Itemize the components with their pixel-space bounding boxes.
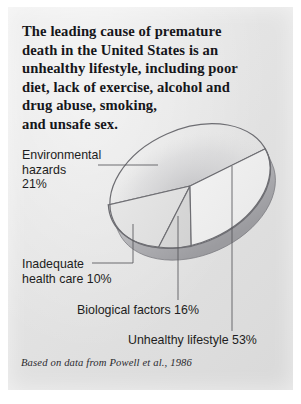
headline-line-4: diet, lack of exercise, alcohol and [22,78,262,97]
label-unhealthy-lifestyle: Unhealthy lifestyle 53% [128,333,257,348]
label-inadequate-line-2: health care 10% [22,272,112,287]
label-environmental-hazards: Environmental hazards 21% [22,148,101,192]
headline-line-1: The leading cause of premature [22,22,262,41]
label-unhealthy-line-1: Unhealthy lifestyle 53% [128,333,257,348]
headline-line-5: drug abuse, smoking, [22,96,262,115]
label-biological-line-1: Biological factors 16% [77,303,199,318]
label-environmental-line-1: Environmental [22,148,101,163]
label-inadequate-health-care: Inadequate health care 10% [22,257,112,286]
label-inadequate-line-1: Inadequate [22,257,112,272]
label-biological-factors: Biological factors 16% [77,303,199,318]
headline-line-2: death in the United States is an [22,41,262,60]
figure-panel: The leading cause of premature death in … [0,0,301,404]
label-environmental-line-3: 21% [22,177,101,192]
label-environmental-line-2: hazards [22,163,101,178]
page-title: The leading cause of premature death in … [22,22,262,134]
headline-line-6: and unsafe sex. [22,115,262,134]
source-note: Based on data from Powell et al., 1986 [21,357,192,368]
headline-line-3: unhealthy lifestyle, including poor [22,59,262,78]
